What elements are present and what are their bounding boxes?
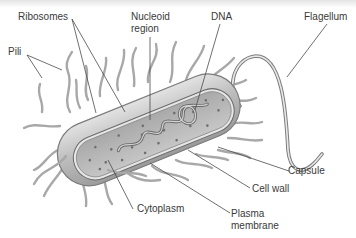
label-cell-wall: Cell wall <box>252 183 289 195</box>
label-plasma-membrane-line1: Plasma <box>231 208 264 220</box>
label-nucleoid-line2: region <box>131 23 159 35</box>
label-dna: DNA <box>211 11 232 23</box>
label-cytoplasm: Cytoplasm <box>137 203 184 215</box>
label-pili: Pili <box>8 46 21 58</box>
cell-body <box>48 64 250 195</box>
label-nucleoid-line1: Nucleoid <box>131 11 170 23</box>
label-capsule: Capsule <box>288 165 325 177</box>
label-plasma-membrane-line2: membrane <box>231 220 279 232</box>
label-flagellum: Flagellum <box>304 11 347 23</box>
label-ribosomes: Ribosomes <box>18 11 68 23</box>
flagellum <box>233 56 322 170</box>
